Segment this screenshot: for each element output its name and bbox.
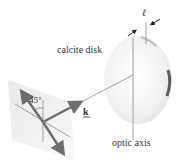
calcite-disk-diagram: calcite disk optic axis 45° k ℓ	[0, 0, 178, 165]
calcite-disk-label: calcite disk	[57, 44, 102, 55]
angle-label: 45°	[29, 95, 42, 105]
optic-axis-label: optic axis	[112, 137, 151, 148]
thickness-arrow-right	[152, 19, 160, 24]
calcite-disk	[104, 36, 172, 124]
wave-vector-label: k	[83, 106, 89, 117]
thickness-label: ℓ	[142, 7, 146, 18]
thickness-arrow-left	[128, 31, 135, 36]
